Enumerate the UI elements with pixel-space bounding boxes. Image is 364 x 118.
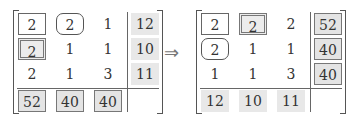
matrix-cell: 2 — [201, 13, 229, 35]
column-divider — [310, 12, 311, 112]
matrix-cell: 3 — [94, 63, 122, 85]
row-divider — [200, 88, 342, 89]
matrix-cell: 1 — [56, 38, 84, 60]
matrix-cell: 3 — [277, 63, 305, 85]
matrix-cell: 1 — [56, 63, 84, 85]
matrix-cell: 40 — [56, 90, 84, 112]
matrix-cell: 2 — [201, 38, 229, 60]
matrix-cell: 40 — [94, 90, 122, 112]
matrix-cell: 1 — [94, 13, 122, 35]
matrix-cell: 11 — [131, 63, 159, 85]
matrix-cell: 12 — [131, 13, 159, 35]
matrix-cell: 1 — [239, 63, 267, 85]
left-matrix: 221122111021311524040 — [13, 10, 163, 114]
matrix-cell: 1 — [94, 38, 122, 60]
right-matrix: 222522114011340121011 — [196, 10, 346, 114]
matrix-cell: 40 — [314, 38, 342, 60]
matrix-cell: 1 — [239, 38, 267, 60]
matrix-cell: 1 — [201, 63, 229, 85]
matrix-cell: 1 — [277, 38, 305, 60]
matrix-cell: 40 — [314, 63, 342, 85]
matrix-cell: 2 — [18, 38, 46, 60]
matrix-cell: 52 — [314, 13, 342, 35]
matrix-cell: 2 — [239, 13, 267, 35]
matrix-cell: 52 — [18, 90, 46, 112]
row-divider — [17, 88, 159, 89]
matrix-cell: 2 — [18, 63, 46, 85]
implies-arrow-icon: ⇒ — [164, 42, 179, 63]
column-divider — [127, 12, 128, 112]
matrix-cell: 12 — [201, 90, 229, 112]
matrix-cell: 2 — [277, 13, 305, 35]
matrix-cell: 11 — [277, 90, 305, 112]
matrix-cell: 10 — [239, 90, 267, 112]
matrix-cell: 10 — [131, 38, 159, 60]
matrix-cell: 2 — [56, 13, 84, 35]
matrix-cell: 2 — [18, 13, 46, 35]
